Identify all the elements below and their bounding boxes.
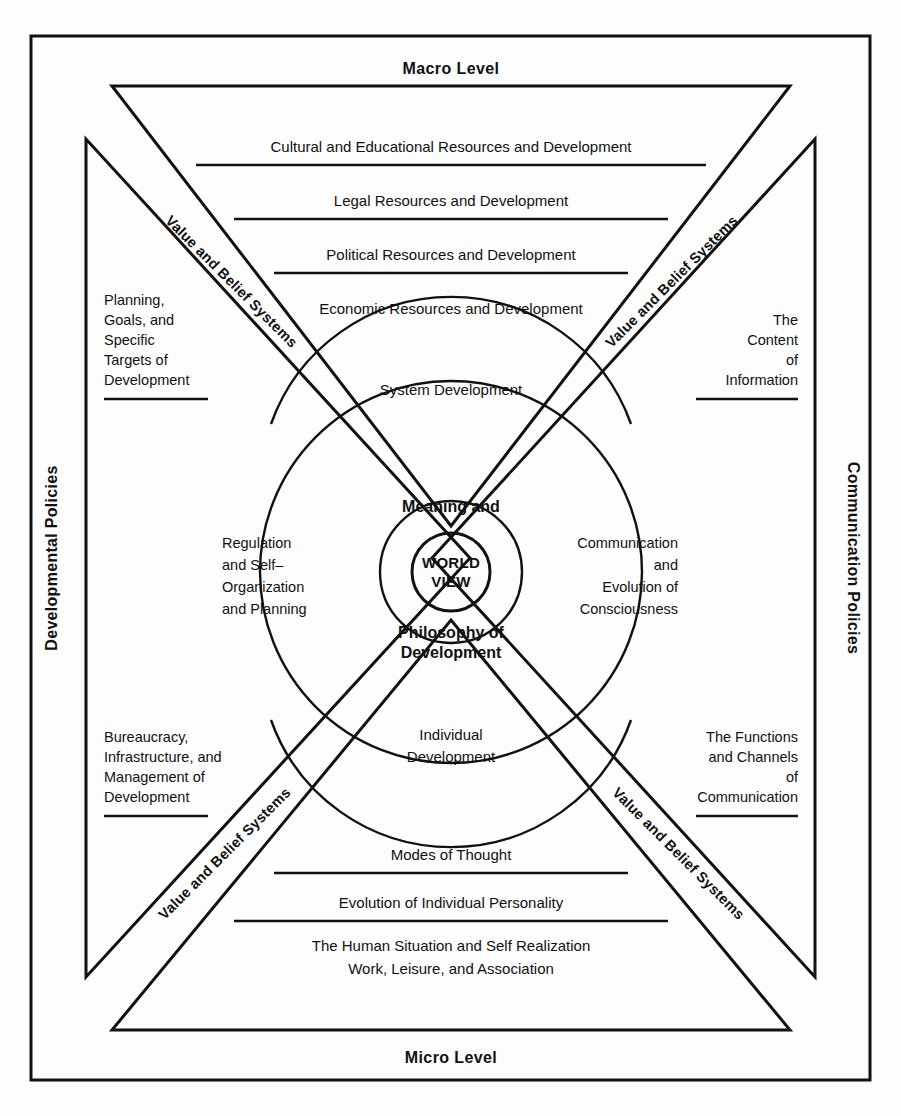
- band-bottom-right-text: Value and Belief Systems: [609, 784, 747, 922]
- macro-row-1-label: Legal Resources and Development: [334, 192, 569, 209]
- corner-bottom-left-line-1: Infrastructure, and: [104, 749, 222, 765]
- quadrant-left-line-0: Regulation: [222, 535, 291, 551]
- quadrant-right: Communication and Evolution of Conscious…: [577, 535, 679, 617]
- quadrant-right-line-0: Communication: [577, 535, 678, 551]
- micro-rows: Modes of Thought Evolution of Individual…: [234, 846, 668, 977]
- sector-bottom-label-1: Development: [407, 748, 496, 765]
- corner-top-left: Planning, Goals, and Specific Targets of…: [104, 292, 208, 399]
- corner-bottom-left-line-3: Development: [104, 789, 189, 805]
- micro-tail-label-1: Work, Leisure, and Association: [348, 960, 554, 977]
- corner-bottom-left-line-0: Bureaucracy,: [104, 729, 188, 745]
- quadrant-left-line-1: and Self–: [222, 557, 284, 573]
- micro-tail-label-0: The Human Situation and Self Realization: [312, 937, 591, 954]
- world-view-circle: [412, 533, 490, 611]
- sector-top-label: System Development: [380, 381, 523, 398]
- corner-bottom-right-line-2: of: [786, 769, 799, 785]
- corner-bottom-right-line-0: The Functions: [706, 729, 798, 745]
- core-below-label-1: Development: [401, 644, 502, 661]
- developmental-policies-text: Developmental Policies: [43, 465, 60, 650]
- diagram-canvas: Cultural and Educational Resources and D…: [0, 0, 901, 1116]
- micro-level-title: Micro Level: [405, 1049, 497, 1066]
- corner-top-right-line-3: Information: [725, 372, 798, 388]
- band-label-top-right: Value and Belief Systems: [602, 212, 740, 350]
- corner-top-right-line-1: Content: [747, 332, 798, 348]
- corner-bottom-right-line-3: Communication: [697, 789, 798, 805]
- corner-top-left-line-0: Planning,: [104, 292, 164, 308]
- macro-row-0-label: Cultural and Educational Resources and D…: [270, 138, 632, 155]
- world-view-label-0: WORLD: [422, 554, 480, 571]
- corner-top-right: The Content of Information: [696, 312, 799, 399]
- macro-row-2-label: Political Resources and Development: [326, 246, 576, 263]
- corner-top-left-line-1: Goals, and: [104, 312, 174, 328]
- corner-bottom-right-line-1: and Channels: [709, 749, 799, 765]
- world-view-label-1: VIEW: [431, 573, 471, 590]
- band-label-bottom-right: Value and Belief Systems: [609, 784, 747, 922]
- macro-rows: Cultural and Educational Resources and D…: [196, 138, 706, 317]
- sector-bottom-label-0: Individual: [419, 726, 482, 743]
- core-above-label: Meaning and: [402, 498, 500, 515]
- band-top-left-text: Value and Belief Systems: [162, 212, 300, 350]
- macro-row-3-label: Economic Resources and Development: [319, 300, 583, 317]
- corner-top-left-line-2: Specific: [104, 332, 155, 348]
- micro-row-1-label: Evolution of Individual Personality: [339, 894, 564, 911]
- corner-bottom-left-line-2: Management of: [104, 769, 206, 785]
- quadrant-left-line-2: Organization: [222, 579, 304, 595]
- quadrant-right-line-1: and: [654, 557, 678, 573]
- quadrant-left: Regulation and Self– Organization and Pl…: [222, 535, 307, 617]
- quadrant-right-line-3: Consciousness: [580, 601, 678, 617]
- band-bottom-left-text: Value and Belief Systems: [155, 784, 293, 922]
- quadrant-left-line-3: and Planning: [222, 601, 307, 617]
- band-top-right-text: Value and Belief Systems: [602, 212, 740, 350]
- corner-top-left-line-3: Targets of: [104, 352, 169, 368]
- band-label-bottom-left: Value and Belief Systems: [155, 784, 293, 922]
- band-label-top-left: Value and Belief Systems: [162, 212, 300, 350]
- world-view-development-diagram: Cultural and Educational Resources and D…: [0, 0, 901, 1116]
- macro-level-title: Macro Level: [403, 60, 500, 77]
- corner-bottom-right: The Functions and Channels of Communicat…: [696, 729, 799, 816]
- corner-top-right-line-0: The: [773, 312, 798, 328]
- communication-policies-text: Communication Policies: [845, 462, 862, 654]
- outer-circle: [260, 381, 642, 763]
- core-below-label-0: Philosophy of: [398, 624, 504, 641]
- micro-row-0-label: Modes of Thought: [391, 846, 512, 863]
- corner-bottom-left: Bureaucracy, Infrastructure, and Managem…: [104, 729, 222, 816]
- corner-top-right-line-2: of: [786, 352, 799, 368]
- communication-policies-title: Communication Policies: [845, 462, 862, 654]
- developmental-policies-title: Developmental Policies: [43, 465, 60, 650]
- corner-top-left-line-4: Development: [104, 372, 189, 388]
- quadrant-right-line-2: Evolution of: [602, 579, 679, 595]
